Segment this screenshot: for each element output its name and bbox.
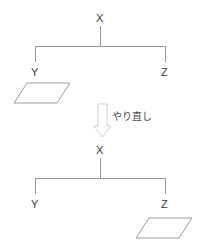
before-tree-connectors xyxy=(35,26,166,62)
transition-down-arrow-icon xyxy=(94,104,111,137)
before-child-z-label: Z xyxy=(161,67,168,78)
after-root-label: X xyxy=(96,145,103,156)
after-child-y-label: Y xyxy=(31,199,38,210)
diagram-vector-layer xyxy=(0,0,201,252)
before-root-label: X xyxy=(96,13,103,24)
diagram-canvas: X Y Z やり直し X Y Z xyxy=(0,0,201,252)
transition-caption: やり直し xyxy=(112,111,152,123)
after-child-z-label: Z xyxy=(161,199,168,210)
after-right-parallelogram xyxy=(136,218,192,238)
after-tree-connectors xyxy=(35,158,166,194)
before-child-y-label: Y xyxy=(31,67,38,78)
before-left-parallelogram xyxy=(14,83,70,103)
